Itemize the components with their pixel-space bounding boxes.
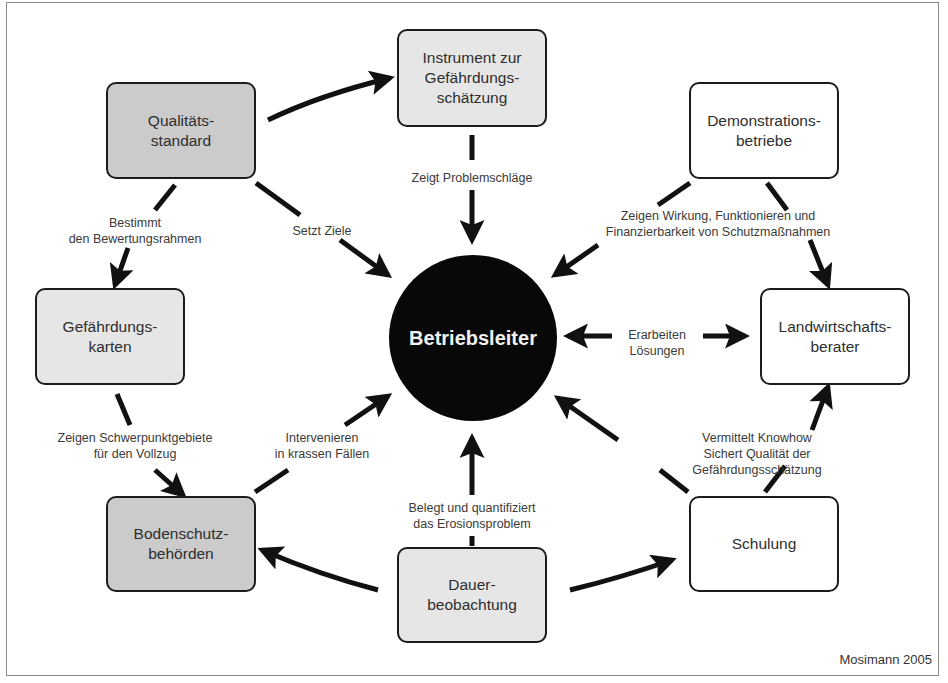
node-label: Landwirtschafts- berater — [779, 317, 892, 357]
arrow-qualitaet-to-instrument — [268, 78, 390, 120]
node-label: Demonstrations- betriebe — [707, 111, 821, 151]
credit-text: Mosimann 2005 — [840, 652, 933, 667]
arrow-dauer-to-schulung — [570, 560, 672, 590]
node-qualitaetsstandard: Qualitäts- standard — [106, 82, 256, 179]
edge-label-zeigen-wirkung: Zeigen Wirkung, Funktionieren und Finanz… — [606, 208, 830, 240]
arrow-schulung-to-berater — [812, 387, 828, 430]
arrow-demo-to-center — [555, 245, 598, 275]
node-landwirtschaftsberater: Landwirtschafts- berater — [760, 288, 910, 385]
arrow-qualitaet-to-center-top — [256, 183, 300, 215]
node-gefaehrdungskarten: Gefährdungs- karten — [35, 288, 185, 385]
arrow-demo-to-berater-top — [767, 183, 787, 210]
node-betriebsleiter: Betriebsleiter — [389, 255, 557, 421]
center-label: Betriebsleiter — [409, 327, 537, 350]
arrow-demo-to-center-top — [658, 183, 690, 205]
node-demonstrationsbetriebe: Demonstrations- betriebe — [689, 82, 839, 179]
arrow-qualitaet-to-karten — [115, 248, 128, 285]
edge-label-bestimmt: Bestimmt den Bewertungsrahmen — [69, 215, 202, 247]
arrow-qualitaet-to-karten-top — [155, 185, 175, 210]
arrow-demo-to-berater — [810, 240, 828, 285]
node-schulung: Schulung — [689, 496, 839, 592]
node-label: Dauer- beobachtung — [427, 575, 517, 615]
node-bodenschutzbehoerden: Bodenschutz- behörden — [106, 496, 256, 592]
arrow-dauer-to-behoerden — [262, 550, 378, 590]
node-label: Gefährdungs- karten — [63, 317, 158, 357]
arrow-qualitaet-to-center — [340, 240, 388, 275]
arrow-schulung-to-center — [558, 398, 618, 440]
edge-label-zeigt-problemschlaege: Zeigt Problemschläge — [412, 170, 533, 186]
node-label: Instrument zur Gefährdungs- schätzung — [422, 48, 521, 108]
node-instrument: Instrument zur Gefährdungs- schätzung — [397, 29, 547, 127]
arrow-behoerden-to-center-bottom — [255, 470, 288, 492]
arrow-karten-to-behoerden — [155, 470, 183, 495]
node-label: Qualitäts- standard — [148, 111, 214, 151]
edge-label-intervenieren: Intervenieren in krassen Fällen — [275, 430, 370, 462]
edge-label-belegt: Belegt und quantifiziert das Erosionspro… — [408, 500, 535, 532]
edge-label-erarbeiten: Erarbeiten Lösungen — [628, 327, 686, 359]
edge-label-vermittelt: Vermittelt Knowhow Sichert Qualität der … — [662, 430, 853, 478]
arrow-karten-to-behoerden-top — [117, 394, 130, 425]
edge-label-zeigen-schwerpunkt: Zeigen Schwerpunktgebiete für den Vollzu… — [58, 430, 213, 462]
arrow-behoerden-to-center — [345, 396, 388, 425]
edge-label-setzt-ziele: Setzt Ziele — [292, 223, 351, 239]
node-label: Bodenschutz- behörden — [134, 524, 229, 564]
node-dauerbeobachtung: Dauer- beobachtung — [397, 547, 547, 643]
node-label: Schulung — [732, 534, 797, 554]
